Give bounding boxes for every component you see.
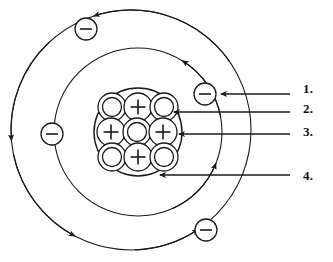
neutron-inner-ring (103, 98, 122, 117)
neutron-8 (150, 143, 178, 171)
atom-diagram-canvas: 1.2.3.4. (0, 0, 333, 262)
nucleus-layer (97, 93, 178, 171)
electron-outer-top-left (75, 18, 97, 40)
motion-arc-inner-lower-right (172, 164, 216, 209)
proton-3 (97, 118, 125, 146)
callout-leader-lines (160, 94, 290, 175)
neutron-inner-ring (155, 98, 174, 117)
callout-1-number: 1. (303, 81, 313, 97)
motion-arc-outer-bottom (135, 230, 198, 250)
neutron-6 (98, 143, 126, 171)
proton-5 (149, 118, 177, 146)
motion-arc-outer-top (94, 10, 229, 61)
atom-diagram-svg (0, 0, 333, 262)
callout-3-number: 3. (303, 124, 313, 140)
electron-inner-right (194, 83, 216, 105)
neutron-inner-ring (128, 123, 147, 142)
neutron-inner-ring (103, 148, 122, 167)
callout-4-number: 4. (303, 168, 313, 184)
electron-outer-bottom (195, 219, 217, 241)
neutron-4 (123, 118, 151, 146)
motion-arc-outer-lower-left (14, 155, 75, 236)
callout-2-number: 2. (303, 101, 313, 117)
neutron-0 (98, 93, 126, 121)
neutron-inner-ring (155, 148, 174, 167)
neutron-2 (150, 93, 178, 121)
proton-1 (124, 93, 152, 121)
proton-7 (124, 143, 152, 171)
electron-outer-left (41, 123, 63, 145)
motion-arc-outer-upper-left (11, 42, 49, 140)
